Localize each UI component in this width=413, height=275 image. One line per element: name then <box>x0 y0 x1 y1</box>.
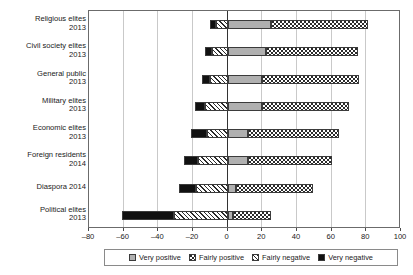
bar-row <box>89 102 399 111</box>
x-axis-tick <box>365 228 366 231</box>
gridline <box>157 11 158 227</box>
x-axis-tick <box>157 228 158 231</box>
x-axis-tick-label: –40 <box>151 232 164 241</box>
x-axis-tick-label: 100 <box>394 232 407 241</box>
y-axis-label: Military elites2013 <box>0 97 86 114</box>
bar-segment-very-negative <box>195 102 205 111</box>
bar-segment-very-negative <box>122 211 174 220</box>
legend-item-very-positive: Very positive <box>129 253 181 262</box>
y-axis-label: General public2013 <box>0 70 86 87</box>
x-axis-tick-label: 0 <box>225 232 229 241</box>
bar-segment-fairly-positive <box>262 102 349 111</box>
plot-area <box>88 10 400 228</box>
bar-segment-fairly-negative <box>198 156 227 165</box>
x-axis-tick-label: –60 <box>116 232 129 241</box>
x-axis-tick-label: 80 <box>361 232 369 241</box>
legend-label: Fairly negative <box>262 253 310 262</box>
bar-row <box>89 129 399 138</box>
y-axis-label-line2: 2013 <box>0 133 86 142</box>
x-axis-tick-label: 20 <box>257 232 265 241</box>
x-axis-tick <box>261 228 262 231</box>
y-axis-label-line2: 2013 <box>0 24 86 33</box>
bar-segment-very-positive <box>228 156 249 165</box>
x-axis-tick <box>296 228 297 231</box>
legend-item-fairly-negative: Fairly negative <box>252 253 310 262</box>
bar-row <box>89 184 399 193</box>
bar-segment-very-negative <box>191 129 207 138</box>
bar-segment-fairly-negative <box>216 20 228 29</box>
y-axis-label: Religious elites2013 <box>0 15 86 32</box>
chart-legend: Very positiveFairly positiveFairly negat… <box>104 249 398 266</box>
bar-row <box>89 20 399 29</box>
bar-segment-very-positive <box>228 129 249 138</box>
bar-row <box>89 211 399 220</box>
bar-segment-fairly-negative <box>210 75 227 84</box>
y-axis-label-line2: 2013 <box>0 214 86 223</box>
bar-segment-very-negative <box>179 184 196 193</box>
x-axis-tick <box>400 228 401 231</box>
x-axis-tick-label: –20 <box>186 232 199 241</box>
y-axis-label-line1: Diaspora 2014 <box>0 183 86 192</box>
bar-segment-fairly-negative <box>212 47 228 56</box>
x-axis-tick <box>88 228 89 231</box>
bar-segment-very-positive <box>228 102 263 111</box>
x-axis-tick <box>192 228 193 231</box>
bar-segment-very-positive <box>228 75 263 84</box>
gridline <box>331 11 332 227</box>
x-axis-tick <box>227 228 228 231</box>
y-axis-label: Economic elites2013 <box>0 124 86 141</box>
bar-segment-fairly-negative <box>207 129 228 138</box>
bar-segment-very-positive <box>228 20 271 29</box>
bar-segment-fairly-negative <box>196 184 227 193</box>
y-axis-label: Political elites2013 <box>0 206 86 223</box>
bar-segment-very-positive <box>228 47 266 56</box>
bar-segment-fairly-negative <box>205 102 228 111</box>
legend-item-very-negative: Very negative <box>318 253 373 262</box>
bar-segment-very-negative <box>202 75 211 84</box>
legend-swatch-fairly-negative-icon <box>252 254 259 261</box>
zero-axis-line <box>227 11 228 227</box>
y-axis-label-line2: 2013 <box>0 105 86 114</box>
legend-label: Very positive <box>139 253 181 262</box>
legend-item-fairly-positive: Fairly positive <box>189 253 244 262</box>
x-axis-tick <box>123 228 124 231</box>
gridline <box>123 11 124 227</box>
gridline <box>261 11 262 227</box>
y-axis-category-labels: Religious elites2013Civil society elites… <box>0 10 86 228</box>
y-axis-label: Foreign residents2014 <box>0 151 86 168</box>
legend-swatch-very-positive-icon <box>129 254 136 261</box>
bar-segment-fairly-positive <box>233 211 271 220</box>
legend-label: Fairly positive <box>199 253 244 262</box>
legend-swatch-fairly-positive-icon <box>189 254 196 261</box>
x-axis-tick-label: –80 <box>82 232 95 241</box>
y-axis-label-line2: 2013 <box>0 51 86 60</box>
legend-swatch-very-negative-icon <box>318 254 325 261</box>
bar-segment-fairly-positive <box>262 75 359 84</box>
bar-segment-fairly-positive <box>236 184 312 193</box>
gridline <box>365 11 366 227</box>
y-axis-label: Diaspora 2014 <box>0 183 86 192</box>
bar-row <box>89 156 399 165</box>
bar-segment-fairly-positive <box>266 47 358 56</box>
bar-row <box>89 47 399 56</box>
gridline <box>192 11 193 227</box>
y-axis-label: Civil society elites2013 <box>0 42 86 59</box>
bar-segment-fairly-negative <box>174 211 228 220</box>
x-axis-tick-label: 60 <box>326 232 334 241</box>
y-axis-label-line2: 2014 <box>0 160 86 169</box>
x-axis-tick-label: 40 <box>292 232 300 241</box>
y-axis-label-line2: 2013 <box>0 78 86 87</box>
legend-label: Very negative <box>328 253 373 262</box>
bar-segment-very-negative <box>205 47 212 56</box>
bar-segment-very-negative <box>184 156 198 165</box>
bar-segment-fairly-positive <box>271 20 368 29</box>
x-axis: –80–60–40–20020406080100 <box>88 228 400 244</box>
bar-segment-very-positive <box>228 184 237 193</box>
gridline <box>296 11 297 227</box>
bar-segment-fairly-positive <box>248 129 338 138</box>
diverging-stacked-bar-chart: Religious elites2013Civil society elites… <box>0 0 413 275</box>
x-axis-tick <box>331 228 332 231</box>
bar-row <box>89 75 399 84</box>
bar-segment-fairly-positive <box>248 156 331 165</box>
